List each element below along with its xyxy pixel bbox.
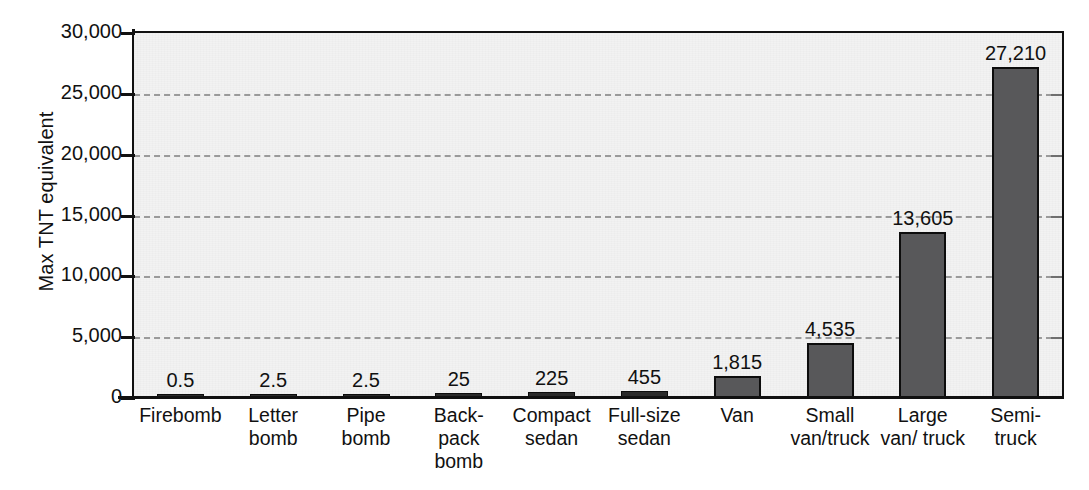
x-axis-category-label: Pipebomb (314, 404, 419, 450)
bar-value-label: 225 (505, 368, 598, 388)
y-axis-tick-mark-right (1051, 276, 1062, 278)
x-axis-category-label: Letterbomb (221, 404, 326, 450)
y-axis-tick-label: 30,000 (0, 21, 122, 41)
x-axis-category-label-line: Letter (221, 404, 326, 427)
x-axis-category-label-line: truck (963, 427, 1068, 450)
y-axis-tick-mark (121, 32, 135, 35)
bar (714, 376, 761, 398)
bar-value-label: 2.5 (227, 370, 320, 390)
y-axis-tick-label: 5,000 (0, 325, 122, 345)
y-axis-tick-mark-right (1051, 155, 1062, 157)
bar-value-label: 2.5 (320, 370, 413, 390)
x-axis-category-label-line: Small (778, 404, 883, 427)
x-axis-category-label: Compactsedan (499, 404, 604, 450)
x-axis-category-label: Back-packbomb (406, 404, 511, 473)
y-axis-tick-labels: 05,00010,00015,00020,00025,00030,000 (0, 0, 122, 490)
bar (992, 67, 1039, 398)
x-axis-category-label-line: bomb (221, 427, 326, 450)
x-axis-category-label: Full-sizesedan (592, 404, 697, 450)
x-axis-category-label-line: van/truck (778, 427, 883, 450)
y-axis-tick-mark-right (1051, 94, 1062, 96)
plot-area: 0.52.52.5252254551,8154,53513,60527,210 (134, 31, 1064, 398)
x-axis-category-label-line: Large (870, 404, 975, 427)
x-axis-category-label: Van (685, 404, 790, 427)
y-axis-tick-label: 0 (0, 386, 122, 406)
bar-value-label: 13,605 (876, 208, 969, 228)
y-axis-tick-label: 15,000 (0, 204, 122, 224)
x-axis-category-label: Semi-truck (963, 404, 1068, 450)
gridline (134, 155, 1062, 157)
x-axis-category-label: Largevan/ truck (870, 404, 975, 450)
y-axis-tick-mark-right (1051, 216, 1062, 218)
x-axis-category-label-line: van/ truck (870, 427, 975, 450)
x-axis-category-label-line: bomb (314, 427, 419, 450)
y-axis-tick-mark (121, 93, 135, 96)
x-axis-category-label-line: Back- (406, 404, 511, 427)
x-axis-category-label: Firebomb (128, 404, 233, 427)
y-axis-tick-label: 10,000 (0, 264, 122, 284)
y-axis-tick-mark (121, 215, 135, 218)
bar-value-label: 4,535 (784, 319, 877, 339)
bar (807, 343, 854, 398)
x-axis-category-label-line: Semi- (963, 404, 1068, 427)
x-axis-category-label-line: Van (685, 404, 790, 427)
x-axis-category-label: Smallvan/truck (778, 404, 883, 450)
x-axis-category-label-line: Full-size (592, 404, 697, 427)
x-axis-line (118, 396, 1064, 399)
bar-value-label: 1,815 (691, 352, 784, 372)
bar-value-label: 27,210 (969, 43, 1062, 63)
y-axis-tick-mark-right (1051, 337, 1062, 339)
x-axis-category-label-line: sedan (499, 427, 604, 450)
bar (899, 232, 946, 398)
x-axis-category-label-line: bomb (406, 450, 511, 473)
bar-value-label: 25 (412, 369, 505, 389)
y-axis-tick-mark (121, 275, 135, 278)
y-axis-tick-mark (121, 336, 135, 339)
gridline (134, 94, 1062, 96)
x-axis-category-label-line: Pipe (314, 404, 419, 427)
bar-value-label: 455 (598, 367, 691, 387)
bar-chart: Max TNT equivalent 05,00010,00015,00020,… (0, 0, 1089, 490)
y-axis-tick-label: 20,000 (0, 143, 122, 163)
x-axis-category-label-line: Firebomb (128, 404, 233, 427)
x-axis-category-label-line: Compact (499, 404, 604, 427)
y-axis-tick-label: 25,000 (0, 82, 122, 102)
x-axis-category-label-line: sedan (592, 427, 697, 450)
x-axis-category-label-line: pack (406, 427, 511, 450)
y-axis-tick-mark (121, 154, 135, 157)
x-axis-category-labels: FirebombLetterbombPipebombBack-packbombC… (134, 404, 1062, 490)
bar-value-label: 0.5 (134, 370, 227, 390)
